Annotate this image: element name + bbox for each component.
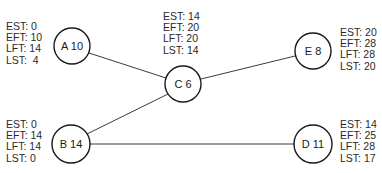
node-d: D 11 [294, 125, 332, 163]
node-e-label: E 8 [305, 45, 322, 57]
node-a-lst: LST: 4 [6, 55, 42, 66]
edge-a-c [89, 53, 166, 78]
node-d-times: EST: 14 EFT: 25 LFT: 28 LST: 17 [340, 119, 377, 164]
edge-b-c [87, 94, 168, 134]
node-b-label: B 14 [60, 138, 83, 150]
node-b: B 14 [52, 125, 90, 163]
edge-c-e [201, 56, 295, 79]
node-c-lft: LFT: 20 [163, 33, 200, 44]
node-a: A 10 [54, 28, 90, 64]
node-d-label: D 11 [302, 138, 324, 150]
node-e-times: EST: 20 EFT: 28 LFT: 28 LST: 20 [340, 27, 377, 72]
node-b-lft: LFT: 14 [6, 141, 42, 152]
node-c-label: C 6 [174, 78, 191, 90]
node-c-lst: LST: 14 [163, 45, 200, 56]
node-a-times: EST: 0 EFT: 10 LFT: 14 LST: 4 [6, 21, 42, 66]
node-e-lft: LFT: 28 [340, 49, 377, 60]
node-c-times: EST: 14 EFT: 20 LFT: 20 LST: 14 [163, 11, 200, 56]
node-e: E 8 [295, 33, 331, 69]
node-d-lst: LST: 17 [340, 153, 377, 164]
node-a-label: A 10 [61, 40, 83, 52]
node-a-lft: LFT: 14 [6, 43, 42, 54]
node-c: C 6 [165, 66, 201, 102]
node-d-lft: LFT: 28 [340, 141, 377, 152]
node-e-lst: LST: 20 [340, 61, 377, 72]
node-b-lst: LST: 0 [6, 153, 42, 164]
node-b-times: EST: 0 EFT: 14 LFT: 14 LST: 0 [6, 119, 42, 164]
